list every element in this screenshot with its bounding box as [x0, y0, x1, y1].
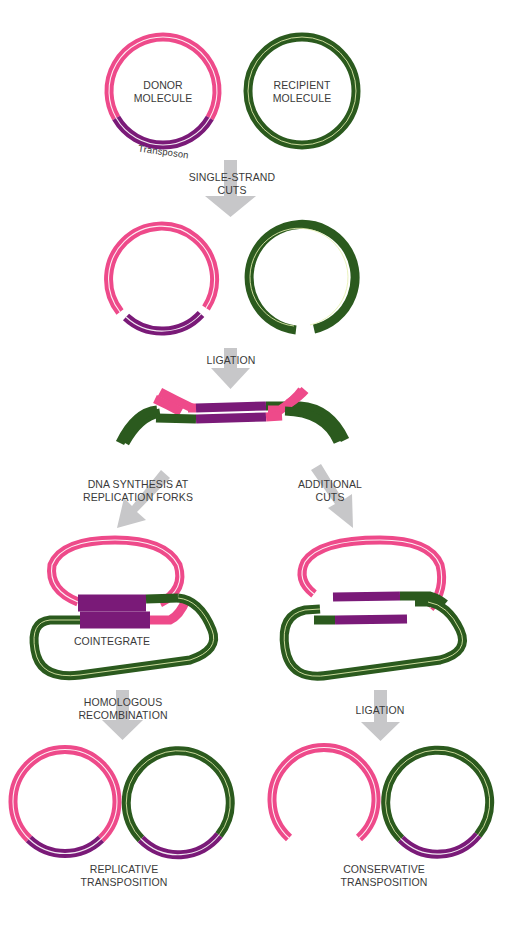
step-final-ligation: LIGATION — [355, 704, 404, 716]
step-homologous-recombination-line1: HOMOLOGOUS — [84, 696, 163, 708]
outcome-replicative-line1: REPLICATIVE — [90, 863, 159, 875]
cut-intermediate — [284, 540, 462, 676]
conservative-recipient-product — [386, 750, 490, 854]
nicked-donor-molecule — [109, 226, 215, 331]
ligated-intermediate — [120, 390, 345, 443]
donor-label-line1: DONOR — [143, 79, 183, 91]
step-additional-cuts-line2: CUTS — [316, 491, 345, 503]
transposition-diagram: DONOR MOLECULE Transposon RECIPIENT MOLE… — [0, 0, 514, 929]
outcome-conservative-line2: TRANSPOSITION — [340, 876, 427, 888]
nicked-recipient-molecule — [249, 224, 355, 330]
recipient-label-line1: RECIPIENT — [274, 79, 331, 91]
replicative-donor-product — [13, 749, 117, 853]
replicative-recipient-product — [126, 751, 230, 855]
step-single-strand-cuts-line2: CUTS — [218, 184, 247, 196]
donor-label-line2: MOLECULE — [134, 92, 193, 104]
step-dna-synthesis-line2: REPLICATION FORKS — [83, 491, 193, 503]
step-dna-synthesis-line1: DNA SYNTHESIS AT — [88, 478, 189, 490]
conservative-donor-remnant — [272, 748, 376, 838]
outcome-conservative-line1: CONSERVATIVE — [343, 863, 425, 875]
recipient-molecule: RECIPIENT MOLECULE — [248, 37, 356, 145]
step-homologous-recombination-line2: RECOMBINATION — [78, 709, 167, 721]
outcome-replicative-line2: TRANSPOSITION — [80, 876, 167, 888]
cointegrate-structure: COINTEGRATE — [34, 540, 214, 676]
cointegrate-label: COINTEGRATE — [74, 635, 150, 647]
step-additional-cuts-line1: ADDITIONAL — [298, 478, 362, 490]
donor-molecule: DONOR MOLECULE Transposon — [109, 37, 217, 160]
step-ligation: LIGATION — [206, 354, 255, 366]
recipient-label-line2: MOLECULE — [273, 92, 332, 104]
step-single-strand-cuts-line1: SINGLE-STRAND — [189, 171, 276, 183]
